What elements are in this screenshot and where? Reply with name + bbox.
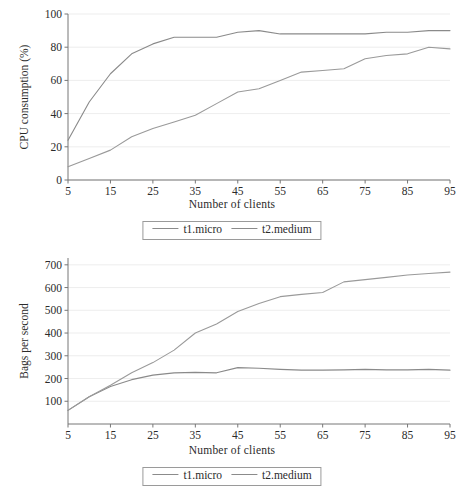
- y-axis-tick-label: 300: [45, 350, 63, 362]
- y-axis-tick-label: 600: [45, 282, 63, 294]
- x-axis-tick-label: 45: [232, 429, 244, 441]
- x-axis-tick-label: 15: [105, 185, 117, 197]
- x-axis-title: Number of clients: [0, 444, 464, 456]
- figure-bags-per-second: 1002003004005006007005152535455565758595…: [0, 246, 464, 492]
- chart-legend: t1.micro t2.medium: [142, 467, 321, 486]
- y-axis-tick-label: 80: [51, 41, 63, 53]
- chart-cpu-plot-area: 0204060801005152535455565758595CPU consu…: [0, 0, 464, 200]
- x-axis-tick-label: 35: [190, 185, 202, 197]
- series-line-t1micro: [68, 368, 450, 411]
- legend-line-icon: [231, 474, 257, 475]
- legend-entry-t2medium[interactable]: t2.medium: [231, 470, 312, 482]
- x-axis-tick-label: 65: [317, 185, 329, 197]
- x-axis-tick-label: 65: [317, 429, 329, 441]
- series-line-t2medium: [68, 272, 450, 410]
- legend-entry-t2medium[interactable]: t2.medium: [231, 224, 312, 236]
- y-axis-tick-label: 100: [45, 8, 63, 20]
- x-axis-tick-label: 85: [402, 185, 414, 197]
- x-axis-tick-label: 95: [444, 185, 456, 197]
- legend-label: t2.medium: [262, 470, 312, 482]
- x-axis-tick-label: 5: [65, 185, 71, 197]
- y-axis-title: Bags per second: [18, 303, 31, 379]
- y-axis-tick-label: 20: [51, 141, 63, 153]
- y-axis-tick-label: 700: [45, 259, 63, 271]
- x-axis-tick-label: 25: [147, 429, 159, 441]
- x-axis-tick-label: 55: [274, 429, 286, 441]
- legend-label: t1.micro: [183, 224, 222, 236]
- x-axis-tick-label: 75: [359, 429, 371, 441]
- chart-bags-per-second: 1002003004005006007005152535455565758595…: [0, 246, 464, 446]
- chart-legend: t1.micro t2.medium: [142, 221, 321, 240]
- legend-line-icon: [231, 228, 257, 229]
- figure-cpu-consumption: 0204060801005152535455565758595CPU consu…: [0, 0, 464, 246]
- x-axis-tick-label: 25: [147, 185, 159, 197]
- legend-label: t2.medium: [262, 224, 312, 236]
- legend-line-icon: [152, 228, 178, 229]
- series-line-t2medium: [68, 47, 450, 167]
- legend-entry-t1micro[interactable]: t1.micro: [152, 224, 222, 236]
- legend-label: t1.micro: [183, 470, 222, 482]
- y-axis-tick-label: 60: [51, 74, 63, 86]
- legend-line-icon: [152, 474, 178, 475]
- y-axis-tick-label: 200: [45, 373, 63, 385]
- y-axis-tick-label: 500: [45, 304, 63, 316]
- x-axis-tick-label: 75: [359, 185, 371, 197]
- y-axis-tick-label: 400: [45, 327, 63, 339]
- y-axis-title: CPU consumption (%): [18, 44, 31, 149]
- y-axis-tick-label: 100: [45, 395, 63, 407]
- x-axis-tick-label: 15: [105, 429, 117, 441]
- x-axis-tick-label: 85: [402, 429, 414, 441]
- chart-cpu-consumption: 0204060801005152535455565758595CPU consu…: [0, 0, 464, 200]
- x-axis-title: Number of clients: [0, 198, 464, 210]
- x-axis-tick-label: 35: [190, 429, 202, 441]
- x-axis-tick-label: 45: [232, 185, 244, 197]
- chart-bags-plot-area: 1002003004005006007005152535455565758595…: [0, 246, 464, 446]
- y-axis-tick-label: 0: [56, 174, 62, 186]
- x-axis-tick-label: 55: [274, 185, 286, 197]
- legend-entry-t1micro[interactable]: t1.micro: [152, 470, 222, 482]
- y-axis-tick-label: 40: [51, 108, 63, 120]
- x-axis-tick-label: 95: [444, 429, 456, 441]
- x-axis-tick-label: 5: [65, 429, 71, 441]
